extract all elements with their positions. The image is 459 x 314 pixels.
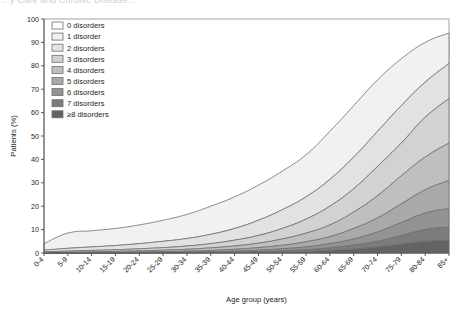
- x-tick-label: 65-69: [336, 255, 355, 274]
- x-tick-label: 75-79: [383, 255, 402, 274]
- stacked-area-chart: 0102030405060708090100 0-45-910-1415-192…: [0, 0, 459, 314]
- legend-label-4: 4 disorders: [67, 66, 105, 75]
- x-tick-label: 10-14: [74, 255, 93, 274]
- x-tick-label: 0-4: [32, 255, 46, 269]
- legend-swatch-1: [52, 33, 63, 40]
- chart-legend: 0 disorders1 disorder2 disorders3 disord…: [52, 21, 109, 119]
- legend-swatch-5: [52, 78, 63, 85]
- legend-swatch-0: [52, 22, 63, 29]
- y-tick-label: 80: [31, 61, 39, 70]
- x-tick-label: 40-44: [217, 255, 236, 274]
- y-tick-label: 40: [31, 155, 39, 164]
- x-tick-label: 45-49: [240, 255, 259, 274]
- legend-swatch-8: [52, 111, 63, 118]
- legend-label-2: 2 disorders: [67, 44, 105, 53]
- y-tick-label: 60: [31, 108, 39, 117]
- y-tick-label: 70: [31, 85, 39, 94]
- x-tick-label: 60-64: [312, 255, 331, 274]
- x-tick-label: 55-59: [288, 255, 307, 274]
- x-axis: 0-45-910-1415-1920-2425-2930-3435-3940-4…: [32, 253, 451, 274]
- legend-label-5: 5 disorders: [67, 77, 105, 86]
- y-tick-label: 100: [27, 15, 39, 24]
- legend-swatch-7: [52, 100, 63, 107]
- x-tick-label: 30-34: [169, 255, 188, 274]
- legend-label-0: 0 disorders: [67, 21, 105, 30]
- x-tick-label: 25-29: [145, 255, 164, 274]
- figure-panel: ...y Care and Chronic Disease... 0102030…: [0, 0, 459, 314]
- legend-swatch-4: [52, 66, 63, 73]
- legend-label-1: 1 disorder: [67, 32, 101, 41]
- x-tick-label: 15-19: [98, 255, 117, 274]
- x-tick-label: 50-54: [264, 255, 283, 274]
- y-tick-label: 10: [31, 225, 39, 234]
- legend-label-7: 7 disorders: [67, 99, 105, 108]
- legend-label-8: ≥8 disorders: [67, 110, 109, 119]
- x-tick-label: 20-24: [121, 255, 140, 274]
- y-tick-label: 90: [31, 38, 39, 47]
- x-tick-label: 35-39: [193, 255, 212, 274]
- x-tick-label: 70-74: [360, 255, 379, 274]
- legend-swatch-3: [52, 55, 63, 62]
- x-tick-label: 80-84: [407, 255, 426, 274]
- y-axis-title: Patients (%): [9, 115, 18, 157]
- clipped-figure-title: ...y Care and Chronic Disease...: [0, 0, 459, 9]
- legend-label-6: 6 disorders: [67, 88, 105, 97]
- y-tick-label: 20: [31, 202, 39, 211]
- legend-swatch-2: [52, 44, 63, 51]
- legend-label-3: 3 disorders: [67, 55, 105, 64]
- x-tick-label: 5-9: [56, 255, 70, 269]
- x-tick-label: 85+: [435, 255, 450, 270]
- y-tick-label: 30: [31, 178, 39, 187]
- y-tick-label: 50: [31, 132, 39, 141]
- legend-swatch-6: [52, 89, 63, 96]
- y-axis: 0102030405060708090100: [27, 15, 44, 258]
- x-axis-title: Age group (years): [226, 295, 287, 304]
